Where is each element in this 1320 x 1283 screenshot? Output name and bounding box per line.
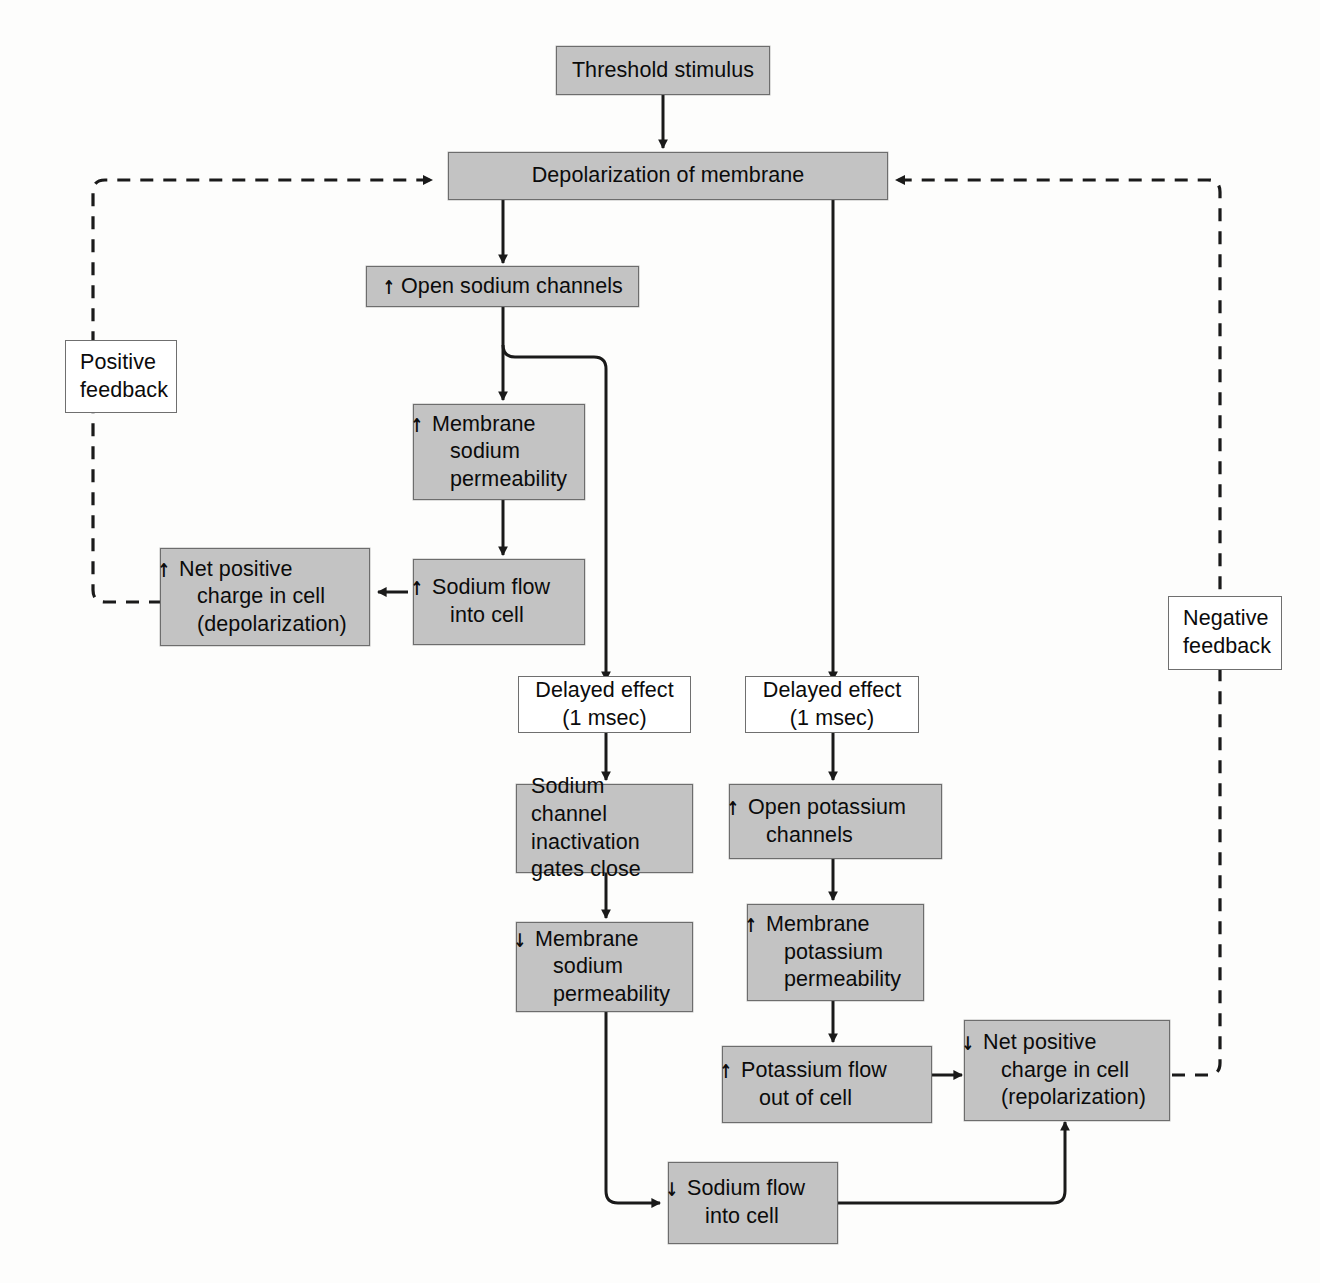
flowchart-canvas: Threshold stimulus Depolarization of mem… [0,0,1320,1283]
node-label-text: Sodium flow into cell [687,1176,805,1228]
node-open-sodium-channels[interactable]: ↑Open sodium channels [366,266,639,307]
node-sodium-flow-into-cell-down[interactable]: ↓Sodium flow into cell [668,1162,838,1244]
node-label: ↓Membrane sodium permeability [517,926,692,1009]
node-label-text: Open sodium channels [401,274,623,298]
node-label: Positive feedback [66,349,178,404]
node-open-potassium-channels[interactable]: ↑Open potassium channels [729,784,942,859]
node-net-positive-charge-depolarization[interactable]: ↑Net positive charge in cell (depolariza… [160,548,370,646]
node-positive-feedback[interactable]: Positive feedback [65,340,177,413]
node-net-positive-charge-repolarization[interactable]: ↓Net positive charge in cell (repolariza… [964,1020,1170,1121]
node-negative-feedback[interactable]: Negative feedback [1168,596,1282,670]
node-potassium-flow-out-of-cell[interactable]: ↑Potassium flow out of cell [722,1046,932,1123]
node-membrane-sodium-permeability-up[interactable]: ↑Membrane sodium permeability [413,404,585,500]
node-membrane-sodium-permeability-down[interactable]: ↓Membrane sodium permeability [516,922,693,1012]
node-delayed-effect-right[interactable]: Delayed effect (1 msec) [745,676,919,733]
node-label: Depolarization of membrane [449,162,887,190]
node-label: Delayed effect (1 msec) [746,677,918,732]
node-label-text: Membrane potassium permeability [766,912,901,991]
node-label: ↑Open sodium channels [367,273,638,301]
node-label-text: Net positive charge in cell (repolarizat… [983,1030,1146,1109]
node-label: Delayed effect (1 msec) [519,677,690,732]
edge-mem-perm-down-na-flow-down [606,1011,660,1203]
node-membrane-potassium-permeability-up[interactable]: ↑Membrane potassium permeability [747,904,924,1001]
node-label: Negative feedback [1169,605,1281,660]
node-label: ↑Net positive charge in cell (depolariza… [161,556,369,639]
node-label: ↓Net positive charge in cell (repolariza… [965,1029,1169,1112]
node-label-text: Open potassium channels [748,795,906,847]
node-label-text: Membrane sodium permeability [535,927,670,1006]
node-label-text: Net positive charge in cell (depolarizat… [179,557,347,636]
node-label-text: Potassium flow out of cell [741,1058,887,1110]
node-label: ↑Open potassium channels [730,794,941,849]
node-label: ↑Membrane potassium permeability [748,911,923,994]
node-threshold-stimulus[interactable]: Threshold stimulus [556,46,770,95]
node-label-text: Membrane sodium permeability [432,412,567,491]
node-label: Threshold stimulus [557,57,769,85]
node-sodium-flow-into-cell-up[interactable]: ↑Sodium flow into cell [413,559,585,645]
node-label: ↓Sodium flow into cell [669,1175,837,1230]
increase-arrow-icon: ↑ [383,275,396,299]
node-label: Sodium channel inactivation gates close [517,773,692,883]
edge-na-flow-down-net-pos-repol [838,1122,1065,1203]
node-sodium-channel-inactivation-gates-close[interactable]: Sodium channel inactivation gates close [516,784,693,873]
node-depolarization-of-membrane[interactable]: Depolarization of membrane [448,152,888,200]
node-label: ↑Potassium flow out of cell [723,1057,931,1112]
node-delayed-effect-left[interactable]: Delayed effect (1 msec) [518,676,691,733]
node-label-text: Sodium flow into cell [432,575,550,627]
node-label: ↑Membrane sodium permeability [414,411,584,494]
node-label: ↑Sodium flow into cell [414,574,584,629]
